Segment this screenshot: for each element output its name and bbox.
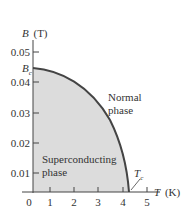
phase-diagram: 0.05 0.04 0.03 0.02 0.01 0 1 2 3 4 5 B (…	[0, 0, 186, 216]
x-axis-title: T (K)	[154, 186, 180, 199]
y-tick-label: 0.01	[11, 167, 30, 179]
y-tick-label: 0.03	[11, 107, 31, 119]
y-tick-label: 0.04	[11, 76, 31, 88]
y-tick-label: 0.02	[11, 137, 30, 149]
x-tick-label: 4	[120, 196, 126, 208]
y-tick-label: 0.05	[11, 46, 31, 58]
x-tick-label: 5	[144, 196, 150, 208]
normal-phase-label: phase	[108, 104, 133, 116]
normal-phase-label: Normal	[108, 91, 142, 103]
x-tick-label: 1	[47, 196, 53, 208]
x-tick-label-origin: 0	[26, 196, 32, 208]
x-tick-label: 3	[95, 196, 101, 208]
y-axis-title: B (T)	[22, 27, 48, 40]
x-tick-label: 2	[71, 196, 77, 208]
tc-pointer	[131, 179, 140, 190]
bc-label: Bc	[22, 62, 33, 77]
superconducting-phase-label: phase	[42, 166, 67, 178]
superconducting-phase-label: Superconducting	[42, 153, 117, 165]
